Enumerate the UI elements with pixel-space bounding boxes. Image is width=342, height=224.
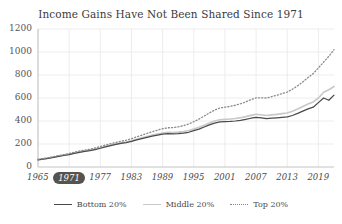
y-axis-tick-label: 200	[2, 138, 32, 148]
legend-line-swatch	[230, 204, 248, 205]
x-axis-tick-label: 1989	[152, 172, 174, 182]
chart-legend: Bottom 20%Middle 20%Top 20%	[0, 200, 342, 209]
x-axis-tick-label: 2019	[307, 172, 329, 182]
legend-item[interactable]: Bottom 20%	[54, 200, 127, 209]
chart-card: Income Gains Have Not Been Shared Since …	[0, 0, 342, 224]
x-axis-tick-label: 1965	[27, 172, 49, 182]
legend-line-swatch	[54, 204, 72, 205]
chart-canvas	[0, 0, 342, 224]
y-axis-tick-label: 0	[2, 161, 32, 171]
x-axis-tick-label-highlighted: 1971	[53, 172, 85, 184]
legend-item-label: Middle 20%	[166, 200, 215, 209]
x-axis-tick-label: 2001	[214, 172, 236, 182]
y-axis-tick-label: 800	[2, 69, 32, 79]
y-axis-tick-label: 1000	[2, 46, 32, 56]
legend-line-swatch	[143, 204, 161, 205]
gridlines	[38, 29, 334, 167]
legend-item-label: Top 20%	[253, 200, 288, 209]
x-axis-tick-label: 2013	[276, 172, 298, 182]
legend-item[interactable]: Top 20%	[230, 200, 288, 209]
y-axis-tick-label: 400	[2, 115, 32, 125]
legend-item[interactable]: Middle 20%	[143, 200, 215, 209]
x-axis-tick-label: 1983	[120, 172, 142, 182]
y-axis-tick-label: 600	[2, 92, 32, 102]
series-line-middle-20	[38, 87, 334, 160]
data-series-layer	[38, 50, 334, 160]
y-axis-tick-label: 1200	[2, 23, 32, 33]
x-axis-tick-label: 1995	[183, 172, 205, 182]
x-axis-tick-label: 2007	[245, 172, 267, 182]
series-line-top-20	[38, 50, 334, 160]
x-axis-tick-label: 1977	[89, 172, 111, 182]
plot-area: 020040060080010001200 196519711977198319…	[0, 0, 342, 224]
legend-item-label: Bottom 20%	[77, 200, 127, 209]
